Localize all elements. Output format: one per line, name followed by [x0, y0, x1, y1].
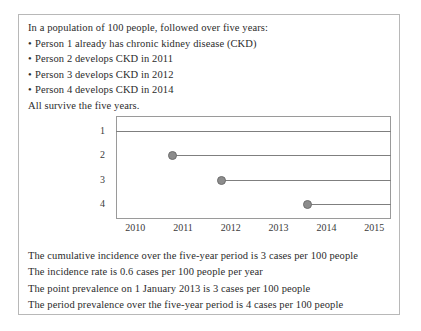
x-axis-label-2011: 2011: [163, 223, 203, 233]
y-axis-label-person-4: 4: [83, 199, 105, 209]
ckd-duration-line-person-3: [221, 180, 391, 181]
scenario-bullet-2-label: Person 2 develops CKD in 2011: [35, 53, 173, 64]
ckd-duration-line-person-4: [307, 204, 391, 205]
figure-container: In a population of 100 people, followed …: [18, 14, 400, 315]
bullet-icon: •: [28, 67, 32, 83]
x-axis-label-2013: 2013: [259, 223, 299, 233]
conclusion-point-prevalence: The point prevalence on 1 January 2013 i…: [28, 281, 393, 297]
scenario-bullet-1-label: Person 1 already has chronic kidney dise…: [35, 38, 257, 49]
ckd-duration-line-person-1: [116, 131, 391, 132]
y-axis-label-person-1: 1: [83, 126, 105, 136]
x-axis-label-2010: 2010: [115, 223, 155, 233]
conclusions-text-block: The cumulative incidence over the five-y…: [28, 248, 393, 314]
ckd-timeline-chart: 1234201020112012201320142015: [19, 107, 401, 229]
x-axis-label-2014: 2014: [306, 223, 346, 233]
ckd-duration-line-person-2: [172, 155, 391, 156]
y-axis-label-person-3: 3: [83, 175, 105, 185]
scenario-text-block: In a population of 100 people, followed …: [28, 20, 388, 114]
scenario-bullet-4-label: Person 4 develops CKD in 2014: [35, 84, 174, 95]
conclusion-period-prevalence: The period prevalence over the five-year…: [28, 297, 393, 313]
scenario-bullet-3-label: Person 3 develops CKD in 2012: [35, 69, 174, 80]
conclusion-incidence-rate: The incidence rate is 0.6 cases per 100 …: [28, 264, 393, 280]
y-axis-label-person-2: 2: [83, 150, 105, 160]
x-axis-label-2012: 2012: [211, 223, 251, 233]
figure-page: In a population of 100 people, followed …: [0, 0, 421, 331]
bullet-icon: •: [28, 82, 32, 98]
scenario-bullet-2: • Person 2 develops CKD in 2011: [28, 51, 388, 67]
x-axis-label-2015: 2015: [354, 223, 394, 233]
conclusion-cumulative-incidence: The cumulative incidence over the five-y…: [28, 248, 393, 264]
scenario-bullet-4: • Person 4 develops CKD in 2014: [28, 82, 388, 98]
scenario-intro: In a population of 100 people, followed …: [28, 20, 388, 36]
bullet-icon: •: [28, 51, 32, 67]
bullet-icon: •: [28, 36, 32, 52]
scenario-bullet-3: • Person 3 develops CKD in 2012: [28, 67, 388, 83]
ckd-onset-marker-person-3: [217, 176, 226, 185]
scenario-bullet-1: • Person 1 already has chronic kidney di…: [28, 36, 388, 52]
